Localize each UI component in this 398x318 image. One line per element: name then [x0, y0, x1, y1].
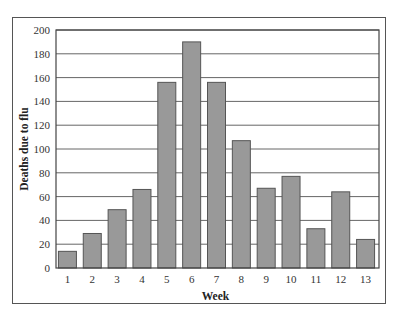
x-tick-label: 3: [114, 273, 120, 285]
bar-week-3: [108, 210, 126, 268]
bar-week-13: [357, 239, 375, 268]
y-tick-label: 200: [34, 24, 51, 36]
bar-chart: 0204060801001201401601802001234567891011…: [0, 0, 398, 318]
bar-week-4: [133, 189, 151, 268]
y-tick-label: 40: [39, 214, 51, 226]
x-tick-label: 9: [263, 273, 269, 285]
x-tick-label: 1: [65, 273, 71, 285]
y-tick-label: 100: [34, 143, 51, 155]
y-tick-label: 160: [34, 72, 51, 84]
bar-week-1: [58, 251, 76, 268]
x-tick-label: 8: [239, 273, 245, 285]
bar-week-6: [183, 42, 201, 268]
bar-week-11: [307, 229, 325, 268]
x-tick-label: 13: [360, 273, 372, 285]
x-tick-label: 10: [286, 273, 298, 285]
y-axis-title: Deaths due to flu: [18, 107, 30, 191]
bar-week-12: [332, 192, 350, 268]
x-tick-label: 2: [90, 273, 96, 285]
x-axis-title: Week: [202, 290, 230, 302]
x-tick-label: 11: [311, 273, 322, 285]
y-tick-label: 180: [34, 48, 51, 60]
y-tick-label: 140: [34, 95, 51, 107]
y-tick-label: 0: [45, 262, 51, 274]
x-tick-label: 6: [189, 273, 195, 285]
y-tick-label: 60: [39, 191, 51, 203]
bar-week-10: [282, 176, 300, 268]
x-tick-label: 5: [164, 273, 170, 285]
bar-week-2: [83, 233, 101, 268]
x-tick-label: 4: [139, 273, 145, 285]
bar-week-8: [232, 141, 250, 268]
x-tick-label: 12: [335, 273, 346, 285]
y-tick-label: 20: [39, 238, 51, 250]
y-tick-label: 80: [39, 167, 51, 179]
y-tick-label: 120: [34, 119, 51, 131]
x-tick-label: 7: [214, 273, 220, 285]
bar-week-5: [158, 82, 176, 268]
bar-week-7: [208, 82, 226, 268]
bar-week-9: [257, 188, 275, 268]
